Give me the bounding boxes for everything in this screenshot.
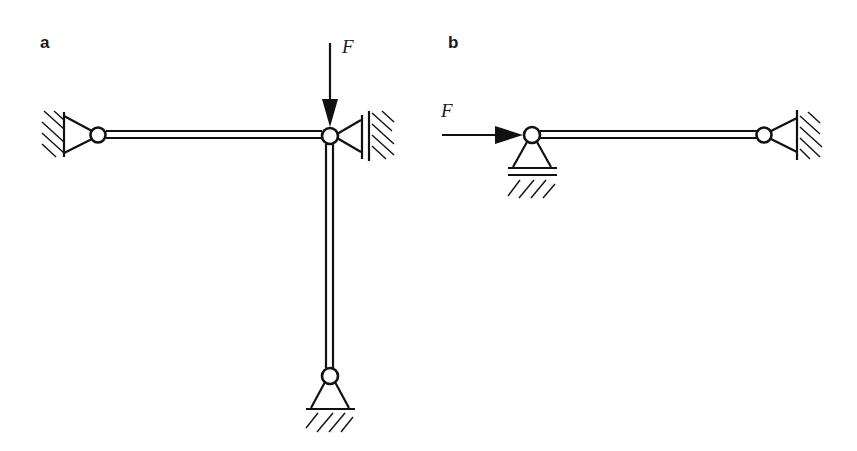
panel-b-beam [540,131,758,138]
panel-a-force-label: F [341,36,354,57]
arrow-down-icon [322,99,338,127]
panel-b-right-wall-support [757,110,823,160]
hatch-icon [800,112,822,159]
panel-a-vertical-column [326,144,333,368]
panel-a-label: a [40,33,50,52]
hatch-icon [306,413,353,432]
hatch-icon [508,180,555,198]
panel-a-left-wall-support [42,111,106,157]
structural-diagram: a F [0,0,857,451]
hinge-icon [524,127,540,143]
panel-b-force-label: F [440,100,453,121]
panel-a-force: F [322,36,354,127]
hinge-icon [757,128,772,143]
panel-b-force: F [440,100,523,144]
panel-b: b F [440,33,822,198]
panel-b-label: b [448,33,458,52]
hinge-icon [322,368,338,384]
hatch-icon [372,111,394,159]
arrow-right-icon [495,126,523,144]
panel-a-right-wall-support [337,111,394,161]
hinge-icon [91,128,106,143]
hatch-icon [42,111,64,157]
panel-a-horizontal-beam [106,131,322,138]
hinge-icon [322,128,338,144]
panel-a-bottom-ground-support [306,368,355,432]
panel-a: a F [40,33,394,432]
